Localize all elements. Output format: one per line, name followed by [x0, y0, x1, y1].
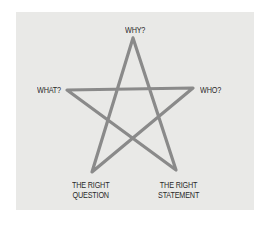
label-right-statement-line1: THE RIGHT	[158, 180, 199, 190]
label-who: WHO?	[200, 85, 221, 95]
label-right-question-line1: THE RIGHT	[72, 180, 109, 190]
label-why: WHY?	[125, 25, 145, 35]
label-right-question: THE RIGHT QUESTION	[72, 180, 109, 200]
label-right-statement-line2: STATEMENT	[158, 190, 199, 200]
label-right-question-line2: QUESTION	[72, 190, 109, 200]
label-right-statement: THE RIGHT STATEMENT	[158, 180, 199, 200]
label-what: WHAT?	[37, 85, 61, 95]
